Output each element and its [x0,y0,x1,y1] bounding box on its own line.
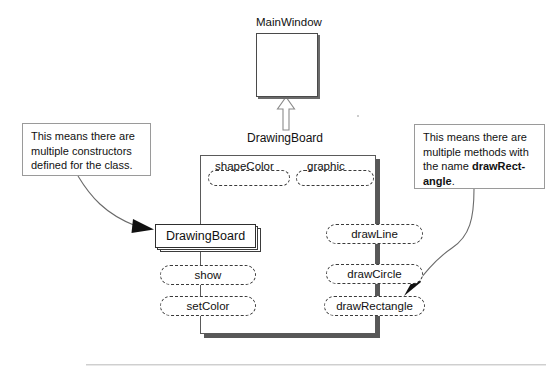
diagram-canvas: MainWindow DrawingBoard shapeColor graph… [0,0,556,378]
attribute-shape-shapecolor[interactable] [208,170,290,186]
generalization-arrow-icon [278,97,295,130]
methods-note-line-3-prefix: the name [423,160,472,172]
method-drawrectangle[interactable]: drawRectangle [324,296,425,316]
superclass-label: MainWindow [256,16,322,29]
method-drawcircle[interactable]: drawCircle [326,264,423,284]
methods-note-line-1: This means there are [423,130,537,145]
constructors-note-pointer-icon [78,176,154,233]
constructors-note: This means there are multiple constructo… [22,123,151,176]
attribute-shape-graphic[interactable] [296,170,374,186]
constructors-note-line-1: This means there are [31,129,143,144]
method-setcolor[interactable]: setColor [160,296,256,316]
methods-note: This means there are multiple methods wi… [414,124,545,189]
constructors-note-line-2: multiple constructors [31,144,143,159]
superclass-box[interactable] [256,33,318,97]
subclass-label: DrawingBoard [247,132,323,145]
methods-note-line-4-suffix: . [452,175,455,187]
method-show[interactable]: show [160,265,256,285]
methods-note-line-2: multiple methods with [423,145,537,160]
methods-note-bold-1: drawRect- [472,160,525,172]
constructors-note-line-3: defined for the class. [31,158,143,173]
methods-note-line-4: angle. [423,174,537,189]
constructor-label: DrawingBoard [155,224,256,248]
methods-note-line-3: the name drawRect- [423,159,537,174]
speck-top-right [357,115,359,117]
method-drawline[interactable]: drawLine [326,224,423,244]
constructor-stack[interactable]: DrawingBoard [155,224,256,248]
page-rule [86,364,546,366]
methods-note-bold-2: angle [423,175,452,187]
